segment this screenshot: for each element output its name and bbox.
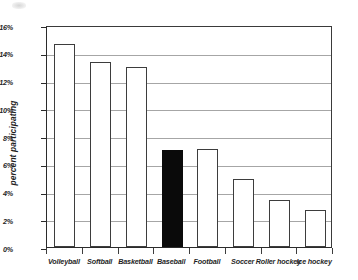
- bar-chart: percent participating 0%2%4%6%8%10%12%14…: [0, 0, 358, 280]
- bar-basketball: [126, 67, 147, 247]
- x-axis-tick: [118, 248, 119, 254]
- y-axis-tick: [41, 221, 47, 222]
- y-axis-tick: [41, 27, 47, 28]
- y-axis-tick: [41, 110, 47, 111]
- x-axis-tick: [153, 248, 154, 254]
- y-axis-tick-label: 2%: [0, 217, 13, 226]
- x-axis-label-ice-hockey: Ice hockey: [286, 257, 342, 266]
- x-axis-tick: [332, 248, 333, 254]
- plot-area: 0%2%4%6%8%10%12%14%16%: [46, 26, 332, 248]
- bar-football: [197, 149, 218, 247]
- gridline: [47, 55, 331, 56]
- x-axis-tick: [46, 248, 47, 254]
- bar-baseball: [162, 150, 183, 247]
- y-axis-tick: [41, 83, 47, 84]
- y-axis-tick: [41, 166, 47, 167]
- y-axis-tick: [41, 194, 47, 195]
- bar-ice-hockey: [305, 210, 326, 247]
- bar-softball: [90, 62, 111, 247]
- bar-soccer: [233, 179, 254, 247]
- y-axis-tick-label: 6%: [0, 161, 13, 170]
- x-axis-tick: [82, 248, 83, 254]
- y-axis-tick-label: 16%: [0, 23, 13, 32]
- y-axis-tick-label: 10%: [0, 106, 13, 115]
- y-axis-tick: [41, 55, 47, 56]
- bar-roller-hockey: [269, 200, 290, 247]
- y-axis-tick-label: 12%: [0, 78, 13, 87]
- x-axis-tick: [189, 248, 190, 254]
- y-axis-tick-label: 8%: [0, 134, 13, 143]
- bar-volleyball: [54, 44, 75, 247]
- y-axis-tick-label: 4%: [0, 189, 13, 198]
- x-axis-tick: [261, 248, 262, 254]
- x-axis-tick: [225, 248, 226, 254]
- y-axis-tick-label: 14%: [0, 50, 13, 59]
- y-axis-tick-label: 0%: [0, 245, 13, 254]
- y-axis-tick: [41, 138, 47, 139]
- x-axis-tick: [296, 248, 297, 254]
